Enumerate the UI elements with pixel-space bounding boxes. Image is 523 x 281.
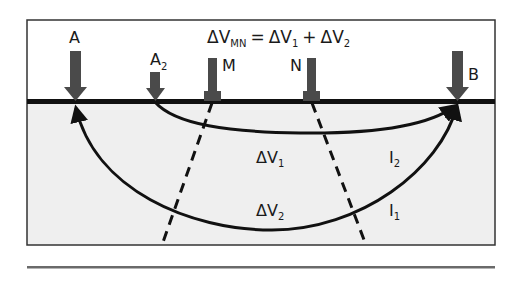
equation: ΔVMN=ΔV1+ΔV2 <box>207 27 350 49</box>
label-m: M <box>222 56 236 75</box>
label-a: A <box>69 28 80 47</box>
electrode-diagram: A A2 M N B ΔVMN=ΔV1+ΔV2 ΔV1 ΔV2 I2 I1 <box>0 0 523 281</box>
label-n: N <box>290 56 302 75</box>
ground-region <box>27 101 495 245</box>
bottom-separator <box>27 266 495 269</box>
label-b: B <box>468 65 479 84</box>
ground-surface-line <box>27 99 495 104</box>
